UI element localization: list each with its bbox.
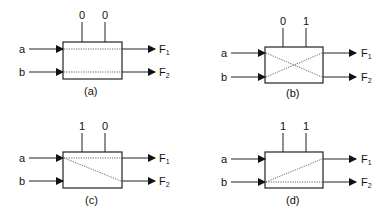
- input-label-a: a: [221, 153, 228, 165]
- input-label-b: b: [221, 71, 227, 83]
- control-label-2: 0: [102, 120, 108, 132]
- control-label-1: 1: [280, 120, 286, 132]
- output-label-f2: F2: [361, 176, 372, 189]
- input-label-b: b: [19, 66, 25, 78]
- output-label-f1: F1: [361, 47, 372, 60]
- output-label-f2: F2: [159, 66, 170, 79]
- input-label-b: b: [19, 175, 25, 187]
- output-label-f1: F1: [361, 153, 372, 166]
- output-label-f1: F1: [159, 152, 170, 165]
- input-label-a: a: [19, 43, 26, 55]
- control-label-1: 1: [79, 120, 85, 132]
- control-label-2: 1: [303, 15, 309, 27]
- switch-box-diagram: 0 0 a b F1 F2 (a) 0 1 a b F1 F2 (b): [0, 0, 390, 216]
- panel-caption: (b): [286, 87, 299, 99]
- panel-caption: (a): [84, 85, 97, 97]
- control-label-1: 0: [79, 9, 85, 21]
- panel-b: 0 1 a b F1 F2 (b): [221, 15, 372, 99]
- switch-box: [265, 47, 323, 83]
- input-label-a: a: [221, 47, 228, 59]
- output-label-f2: F2: [361, 71, 372, 84]
- panel-c: 1 0 a b F1 F2 (c): [19, 120, 170, 206]
- control-label-1: 0: [280, 15, 286, 27]
- panel-caption: (d): [286, 194, 299, 206]
- panel-caption: (c): [85, 194, 98, 206]
- switch-box: [265, 152, 323, 188]
- control-label-2: 1: [303, 120, 309, 132]
- switch-box: [63, 42, 122, 79]
- panel-d: 1 1 a b F1 F2 (d): [221, 120, 372, 206]
- output-label-f1: F1: [159, 43, 170, 56]
- control-label-2: 0: [102, 9, 108, 21]
- panel-a: 0 0 a b F1 F2 (a): [19, 9, 170, 97]
- input-label-b: b: [221, 176, 227, 188]
- input-label-a: a: [19, 152, 26, 164]
- switch-box: [63, 152, 122, 188]
- output-label-f2: F2: [159, 175, 170, 188]
